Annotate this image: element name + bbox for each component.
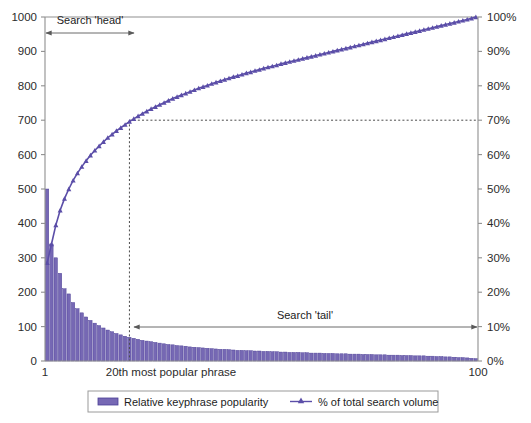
left-tick-label-0: 0 [31, 355, 37, 367]
x-tick-label-last: 100 [468, 366, 487, 378]
bar [54, 258, 57, 361]
right-tick-label-10: 10% [487, 321, 510, 333]
bar [335, 354, 338, 361]
bar [383, 355, 386, 361]
bar [188, 347, 191, 361]
bar [439, 357, 442, 361]
bar [279, 352, 282, 361]
bar [353, 354, 356, 361]
x-tick-label-first: 1 [42, 366, 48, 378]
bar [236, 350, 239, 361]
bar [348, 354, 351, 361]
bar [271, 352, 274, 361]
bar [379, 355, 382, 361]
right-tick-label-50: 50% [487, 183, 510, 195]
left-tick-label-500: 500 [18, 183, 37, 195]
bar [253, 351, 256, 361]
bar [409, 356, 412, 362]
bar [232, 350, 235, 361]
bar [366, 354, 369, 361]
bar [322, 353, 325, 361]
bar [149, 342, 152, 361]
left-tick-label-700: 700 [18, 114, 37, 126]
left-tick-label-900: 900 [18, 45, 37, 57]
bar [162, 344, 165, 361]
bar [396, 355, 399, 361]
bar [435, 357, 438, 361]
bar [431, 356, 434, 361]
bar [258, 351, 261, 361]
bar [110, 332, 113, 361]
bar [227, 350, 230, 361]
bar [145, 341, 148, 361]
right-tick-label-100: 100% [487, 11, 516, 23]
left-tick-label-400: 400 [18, 217, 37, 229]
left-tick-label-300: 300 [18, 252, 37, 264]
bar [223, 349, 226, 361]
bar [327, 353, 330, 361]
bar [128, 337, 131, 361]
bar [67, 294, 70, 361]
bar [288, 352, 291, 361]
right-tick-label-40: 40% [487, 217, 510, 229]
bar [400, 356, 403, 362]
left-tick-label-1000: 1000 [11, 11, 37, 23]
left-tick-label-800: 800 [18, 80, 37, 92]
bar [357, 354, 360, 361]
bar [314, 353, 317, 361]
bar [93, 323, 96, 361]
bar [58, 273, 61, 361]
bar [76, 309, 79, 361]
bar [448, 357, 451, 361]
search-head-label: Search 'head' [57, 14, 124, 26]
bar [452, 357, 455, 361]
left-tick-label-200: 200 [18, 286, 37, 298]
bar [296, 352, 299, 361]
bar [141, 340, 144, 361]
bar [275, 352, 278, 361]
bar [309, 353, 312, 361]
bar [154, 342, 157, 361]
right-tick-label-60: 60% [487, 149, 510, 161]
left-tick-label-100: 100 [18, 321, 37, 333]
threshold-caption: 20th most popular phrase [106, 366, 236, 378]
bar [361, 354, 364, 361]
bar [106, 330, 109, 361]
bar [418, 356, 421, 361]
bar [405, 356, 408, 362]
bar [374, 355, 377, 361]
bar [210, 349, 213, 361]
bar [331, 353, 334, 361]
right-tick-label-90: 90% [487, 45, 510, 57]
legend-swatch-bar [98, 398, 118, 405]
bar [344, 354, 347, 361]
bar [444, 357, 447, 361]
bar [262, 351, 265, 361]
bar [97, 326, 100, 361]
bar [266, 351, 269, 361]
bar [201, 348, 204, 361]
bar [180, 346, 183, 361]
bar [84, 317, 87, 361]
bar [370, 354, 373, 361]
bar [132, 338, 135, 361]
bar [240, 350, 243, 361]
bar [245, 351, 248, 361]
search-tail-label: Search 'tail' [277, 309, 333, 321]
bar [340, 354, 343, 361]
right-tick-label-30: 30% [487, 252, 510, 264]
bar [292, 352, 295, 361]
bar [50, 244, 53, 361]
bar [80, 313, 83, 361]
left-tick-label-600: 600 [18, 149, 37, 161]
bar [115, 333, 118, 361]
bar [102, 328, 105, 361]
legend-label-line: % of total search volume [318, 396, 438, 408]
chart-figure: 01002003004005006007008009001000 0%10%20… [0, 0, 531, 423]
bar [318, 353, 321, 361]
bar [89, 320, 92, 361]
bar [45, 189, 48, 361]
bar [426, 356, 429, 361]
right-tick-label-20: 20% [487, 286, 510, 298]
bar [392, 355, 395, 361]
